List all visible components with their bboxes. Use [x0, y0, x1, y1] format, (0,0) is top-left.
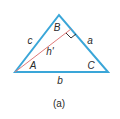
- side-label-a: a: [87, 35, 93, 46]
- vertex-label-b: B: [54, 22, 61, 33]
- vertex-label-c: C: [87, 60, 95, 71]
- altitude-label: h': [46, 46, 55, 57]
- triangle-diagram: B A C c a b h' (a): [0, 0, 120, 119]
- side-label-b: b: [57, 75, 63, 86]
- vertex-label-a: A: [29, 60, 37, 71]
- side-label-c: c: [28, 35, 33, 46]
- figure-caption: (a): [53, 98, 65, 109]
